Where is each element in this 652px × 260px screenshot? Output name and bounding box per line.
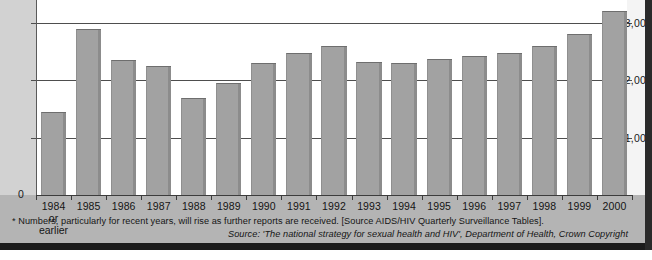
bar-1999 (567, 34, 592, 195)
bar-shade (344, 47, 347, 195)
x-axis-label-1993: 1993 (352, 200, 387, 212)
x-axis-line (36, 195, 632, 196)
bar-1991 (286, 53, 311, 195)
x-axis-label-1988: 1988 (176, 200, 211, 212)
x-axis-label-1996: 1996 (457, 200, 492, 212)
x-axis-label-1992: 1992 (316, 200, 351, 212)
x-axis-label-1987: 1987 (141, 200, 176, 212)
bar-shade (203, 99, 206, 196)
bar-1990 (251, 63, 276, 195)
y-axis-label-strip (0, 0, 36, 206)
bar-1988 (181, 98, 206, 196)
chart-footnote: * Numbers, particularly for recent years… (12, 216, 544, 226)
x-axis-label-1997: 1997 (492, 200, 527, 212)
bar-2000 (602, 11, 627, 195)
chart-source-credit: Source: 'The national strategy for sexua… (228, 229, 628, 239)
bar-1997 (497, 53, 522, 195)
bar-1984 (41, 112, 66, 195)
plate-bottom-edge (0, 243, 652, 250)
bar-shade (379, 63, 382, 195)
bar-series-group (36, 0, 632, 195)
x-axis-label-1998: 1998 (527, 200, 562, 212)
bar-1996 (462, 56, 487, 195)
x-axis-label-1995: 1995 (422, 200, 457, 212)
bar-1986 (111, 60, 136, 195)
bar-shade (309, 54, 312, 195)
bar-shade (624, 12, 627, 195)
bar-shade (414, 64, 417, 195)
x-axis-label-1985: 1985 (71, 200, 106, 212)
x-axis-label-1984: 1984 (36, 200, 71, 212)
bar-shade (273, 64, 276, 195)
bar-shade (168, 67, 171, 195)
bar-shade (449, 60, 452, 196)
bar-1987 (146, 66, 171, 195)
x-axis-label-2000: 2000 (597, 200, 632, 212)
x-axis-label-1994: 1994 (387, 200, 422, 212)
bar-shade (63, 113, 66, 195)
chart-screenshot: 1,0002,0003,000 0 1984or earlier19851986… (0, 0, 652, 260)
bar-1985 (76, 29, 101, 195)
bar-shade (238, 84, 241, 195)
bar-1989 (216, 83, 241, 195)
x-axis-label-1990: 1990 (246, 200, 281, 212)
x-tick-end (632, 195, 633, 200)
bar-shade (133, 61, 136, 195)
x-axis-label-1991: 1991 (281, 200, 316, 212)
x-axis-label-1989: 1989 (211, 200, 246, 212)
bar-shade (484, 57, 487, 195)
bar-1992 (321, 46, 346, 195)
bar-shade (519, 54, 522, 195)
bar-1995 (427, 59, 452, 196)
bar-shade (589, 35, 592, 195)
bar-1998 (532, 46, 557, 195)
x-axis-label-1986: 1986 (106, 200, 141, 212)
bar-1993 (356, 62, 381, 195)
x-axis-label-1999: 1999 (562, 200, 597, 212)
bar-shade (98, 30, 101, 195)
bar-shade (554, 47, 557, 195)
bar-1994 (391, 63, 416, 195)
plate-right-edge (645, 0, 652, 250)
y-tick-label-zero: 0 (18, 188, 24, 200)
